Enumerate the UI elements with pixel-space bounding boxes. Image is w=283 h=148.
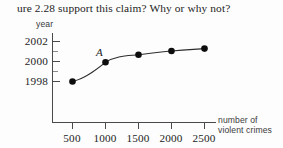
data-point-1500: [135, 52, 142, 59]
data-point-500: [69, 78, 76, 85]
y-tick-label-2000: 2000: [14, 55, 48, 67]
x-axis-label: number of violent crimes: [218, 116, 272, 135]
y-tick-label-2002: 2002: [14, 35, 48, 47]
y-tick-label-1998: 1998: [14, 75, 48, 87]
scatter-line-chart: year 2002 2000 1998 500 1000 1500 2000 2…: [0, 0, 283, 148]
data-point-1000: [102, 59, 109, 66]
data-point-2000: [168, 48, 175, 55]
point-annotation-a: A: [96, 46, 103, 58]
data-point-2500: [201, 45, 208, 52]
x-axis-label-line-2: violent crimes: [218, 126, 272, 136]
figure-page: ure 2.28 support this claim? Why or why …: [0, 0, 283, 148]
y-axis-label: year: [36, 19, 53, 29]
